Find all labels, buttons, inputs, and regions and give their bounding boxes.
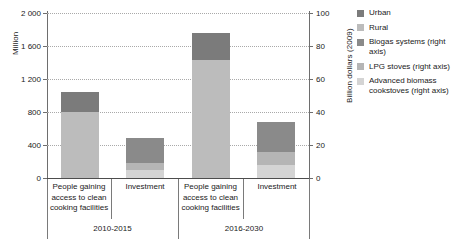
- right-tick-mark: [309, 145, 313, 146]
- chart-container: Million Billion dollars (2009) 04008001 …: [0, 0, 459, 239]
- legend-label: Urban: [369, 8, 391, 18]
- left-tick-mark: [43, 46, 47, 47]
- bar-segment[interactable]: [192, 60, 230, 178]
- left-tick-label: 1 600: [21, 42, 41, 51]
- left-tick-mark: [43, 145, 47, 146]
- right-tick-mark: [309, 112, 313, 113]
- right-tick-label: 40: [316, 108, 325, 117]
- gridline: [47, 13, 309, 14]
- left-tick-label: 800: [28, 108, 41, 117]
- bar-2[interactable]: [126, 138, 164, 178]
- bar-segment[interactable]: [257, 122, 295, 152]
- bar-segment[interactable]: [257, 152, 295, 165]
- left-tick-label: 2 000: [21, 9, 41, 18]
- group-label-2016-2030: 2016-2030: [178, 219, 310, 239]
- left-tick-mark: [43, 79, 47, 80]
- legend-label: LPG stoves (right axis): [369, 62, 450, 72]
- right-axis-title: Billion dollars (2009): [345, 28, 354, 103]
- bar-segment[interactable]: [126, 138, 164, 163]
- right-axis-line: [309, 11, 310, 180]
- bar-3[interactable]: [192, 33, 230, 178]
- legend-swatch-icon: [357, 39, 364, 46]
- chart-legend: UrbanRuralBiogas systems (right axis)LPG…: [357, 8, 457, 101]
- right-tick-label: 20: [316, 141, 325, 150]
- left-axis-title: Million: [11, 32, 20, 55]
- legend-item[interactable]: Biogas systems (right axis): [357, 37, 457, 57]
- right-tick-mark: [309, 46, 313, 47]
- category-label-investment-2016: Investment: [244, 179, 310, 219]
- legend-label: Biogas systems (right axis): [369, 37, 457, 57]
- bar-segment[interactable]: [61, 92, 99, 112]
- right-tick-label: 0: [316, 174, 320, 183]
- category-label-investment-2010: Investment: [112, 179, 178, 219]
- legend-swatch-icon: [357, 63, 364, 70]
- group-label-2010-2015: 2010-2015: [47, 219, 178, 239]
- bar-1[interactable]: [61, 92, 99, 178]
- left-tick-mark: [43, 112, 47, 113]
- plot-area: 04008001 2001 6002 000 020406080100: [47, 13, 309, 178]
- right-tick-label: 60: [316, 75, 325, 84]
- legend-swatch-icon: [357, 24, 364, 31]
- right-tick-label: 100: [316, 9, 329, 18]
- category-label-people-2016: People gaining access to clean cooking f…: [178, 179, 244, 219]
- legend-item[interactable]: LPG stoves (right axis): [357, 62, 457, 72]
- bar-segment[interactable]: [126, 163, 164, 170]
- right-tick-label: 80: [316, 42, 325, 51]
- left-tick-mark: [43, 13, 47, 14]
- category-label-people-2010: People gaining access to clean cooking f…: [47, 179, 112, 219]
- bar-4[interactable]: [257, 122, 295, 178]
- category-label-table: People gaining access to clean cooking f…: [47, 179, 310, 239]
- legend-item[interactable]: Rural: [357, 23, 457, 33]
- legend-swatch-icon: [357, 78, 364, 85]
- legend-label: Advanced biomass cookstoves (right axis): [369, 76, 457, 96]
- bar-segment[interactable]: [192, 33, 230, 60]
- gridline: [47, 46, 309, 47]
- gridline: [47, 79, 309, 80]
- left-tick-label: 0: [37, 174, 41, 183]
- legend-swatch-icon: [357, 10, 364, 17]
- legend-label: Rural: [369, 23, 388, 33]
- bar-segment[interactable]: [257, 165, 295, 178]
- bar-segment[interactable]: [126, 170, 164, 178]
- right-tick-mark: [309, 79, 313, 80]
- legend-item[interactable]: Urban: [357, 8, 457, 18]
- left-tick-label: 400: [28, 141, 41, 150]
- legend-item[interactable]: Advanced biomass cookstoves (right axis): [357, 76, 457, 96]
- right-tick-mark: [309, 13, 313, 14]
- bar-segment[interactable]: [61, 112, 99, 178]
- left-tick-label: 1 200: [21, 75, 41, 84]
